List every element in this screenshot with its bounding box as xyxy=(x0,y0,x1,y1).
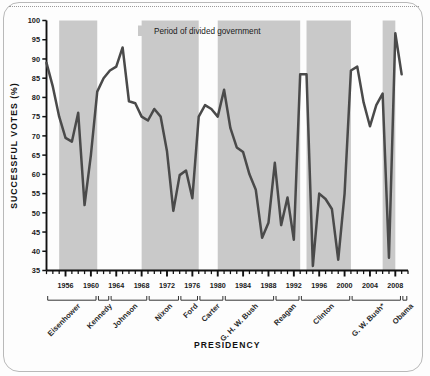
y-tick-label: 65 xyxy=(32,151,40,160)
x-tick-label: 1980 xyxy=(210,281,226,290)
x-tick-label: 1968 xyxy=(134,281,150,290)
presidency-bracket xyxy=(48,296,96,300)
y-axis-title: SUCCESSFUL VOTES (%) xyxy=(9,82,19,208)
x-tick-label: 1976 xyxy=(184,281,200,290)
shaded-band xyxy=(218,21,300,271)
shaded-band xyxy=(142,21,199,271)
y-tick-label: 55 xyxy=(32,189,40,198)
presidency-labels: EisenhowerKennedyJohnsonNixonFordCarterG… xyxy=(46,301,416,343)
shaded-band xyxy=(307,21,351,271)
presidency-bracket xyxy=(111,296,147,300)
x-tick-label: 2008 xyxy=(387,281,403,290)
y-tick-label: 35 xyxy=(32,266,40,275)
chart-figure: 10095908580757065605550454035 1956196019… xyxy=(0,0,430,376)
y-tick-label: 85 xyxy=(32,74,40,83)
presidency-bracket xyxy=(403,296,407,300)
presidency-bracket xyxy=(225,296,273,300)
presidency-label: Nixon xyxy=(153,301,175,323)
legend-label: Period of divided government xyxy=(154,27,261,36)
x-tick-label: 1984 xyxy=(235,281,251,290)
x-tick-label: 1992 xyxy=(286,281,302,290)
x-axis: 1956196019641968197219761980198419881992… xyxy=(47,271,409,291)
y-tick-label: 90 xyxy=(32,55,40,64)
legend-swatch xyxy=(138,26,149,37)
y-tick-label: 40 xyxy=(32,247,40,256)
presidency-bracket xyxy=(200,296,223,300)
presidency-label: G. W. Bush* xyxy=(350,302,387,339)
x-tick-label: 2004 xyxy=(362,281,378,290)
y-tick-label: 95 xyxy=(32,35,40,44)
presidency-bracket xyxy=(98,296,108,300)
presidency-bracket xyxy=(352,296,400,300)
line-chart-svg: 10095908580757065605550454035 1956196019… xyxy=(0,0,430,376)
presidency-bracket xyxy=(149,296,178,300)
y-axis: 10095908580757065605550454035 xyxy=(28,16,47,275)
presidency-label: Eisenhower xyxy=(46,302,83,339)
presidency-label: G. H. W. Bush xyxy=(218,301,260,343)
presidency-bracket xyxy=(276,296,299,300)
x-tick-label: 1960 xyxy=(83,281,99,290)
y-tick-label: 70 xyxy=(32,132,40,141)
y-tick-label: 75 xyxy=(32,112,40,121)
presidency-label: Johnson xyxy=(111,301,140,330)
x-axis-title: PRESIDENCY xyxy=(194,340,260,350)
y-tick-label: 80 xyxy=(32,93,40,102)
presidency-brackets xyxy=(48,296,407,300)
presidency-label: Clinton xyxy=(311,301,336,326)
presidency-label: Obama xyxy=(391,301,416,326)
x-tick-label: 1964 xyxy=(108,281,124,290)
divided-government-bands xyxy=(59,21,395,271)
x-tick-label: 1988 xyxy=(260,281,276,290)
y-tick-label: 45 xyxy=(32,228,40,237)
presidency-bracket xyxy=(181,296,198,300)
x-tick-label: 2000 xyxy=(337,281,353,290)
chart-legend: Period of divided government xyxy=(138,26,261,37)
plot-area: 10095908580757065605550454035 1956196019… xyxy=(0,0,430,376)
y-tick-label: 50 xyxy=(32,209,40,218)
y-tick-label: 60 xyxy=(32,170,40,179)
y-tick-label: 100 xyxy=(28,16,40,25)
presidency-label: Carter xyxy=(200,302,222,324)
presidency-label: Kennedy xyxy=(85,301,115,331)
x-tick-label: 1996 xyxy=(311,281,327,290)
presidency-label: Ford xyxy=(181,301,200,320)
x-tick-label: 1956 xyxy=(58,281,74,290)
presidency-bracket xyxy=(301,296,349,300)
x-tick-label: 1972 xyxy=(159,281,175,290)
presidency-label: Reagan xyxy=(272,301,298,327)
